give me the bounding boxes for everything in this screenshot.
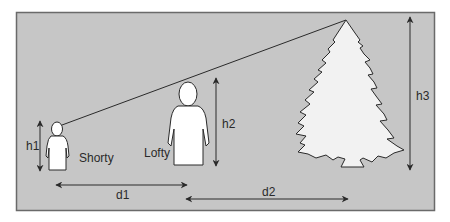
d2-label: d2 xyxy=(262,185,276,199)
diagram: h1 Shorty Lofty h2 h3 d1 d2 xyxy=(0,0,450,222)
h2-label: h2 xyxy=(222,117,236,131)
h1-label: h1 xyxy=(26,139,40,153)
d1-label: d1 xyxy=(116,188,130,202)
h3-label: h3 xyxy=(416,89,430,103)
shorty-label: Shorty xyxy=(79,151,114,165)
lofty-label: Lofty xyxy=(144,146,170,160)
